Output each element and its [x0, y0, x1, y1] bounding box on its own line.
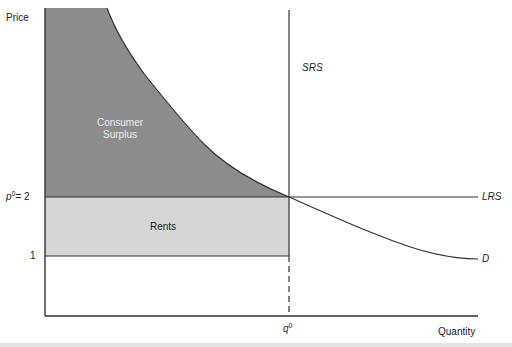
demand-label: D [482, 253, 489, 264]
price-p0-label: p0= 2 [6, 190, 30, 202]
consumer-surplus-line1: Consumer [85, 117, 155, 129]
bottom-border-strip [0, 343, 512, 347]
consumer-surplus-label: Consumer Surplus [85, 117, 155, 141]
supply-demand-diagram [0, 0, 512, 347]
quantity-q0-label: q0 [283, 322, 292, 334]
consumer-surplus-line2: Surplus [85, 129, 155, 141]
rents-label: Rents [150, 221, 176, 232]
y-axis-label: Price [6, 12, 29, 23]
x-axis-label: Quantity [438, 326, 475, 337]
q0-sup: 0 [289, 322, 293, 329]
lrs-label: LRS [482, 191, 501, 202]
srs-label: SRS [302, 62, 323, 73]
p0-eq: = 2 [15, 191, 29, 202]
price-one-label: 1 [30, 250, 36, 261]
